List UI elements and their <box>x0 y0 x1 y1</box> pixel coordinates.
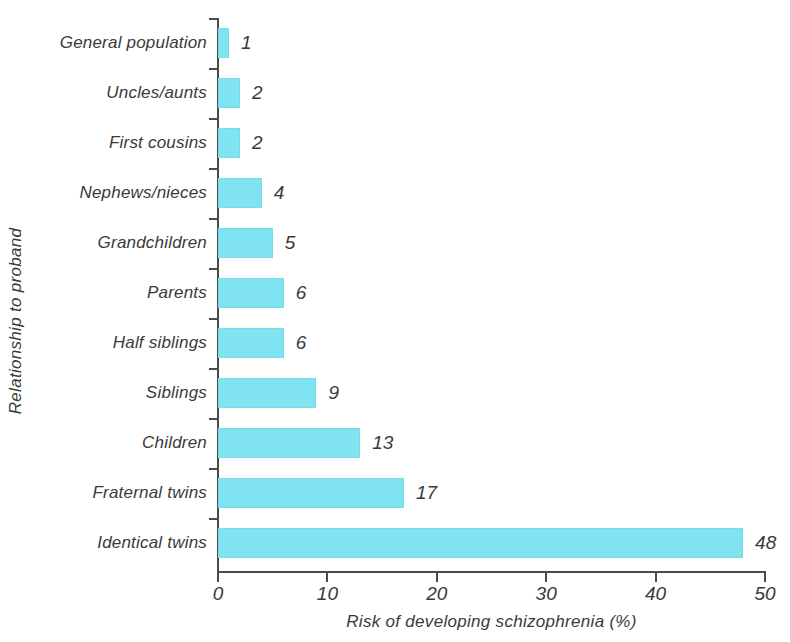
bar-value-label: 6 <box>284 328 307 358</box>
x-axis-tick <box>655 573 657 582</box>
bar <box>218 378 316 408</box>
bar-row: Parents6 <box>218 268 765 318</box>
bar-row: Fraternal twins17 <box>218 468 765 518</box>
bar-value-label: 48 <box>743 528 776 558</box>
bar-row: Uncles/aunts2 <box>218 68 765 118</box>
x-axis-line <box>217 571 766 573</box>
category-label: Half siblings <box>113 328 207 358</box>
bar-chart: Relationship to proband General populati… <box>0 0 790 642</box>
x-axis-tick <box>764 573 766 582</box>
x-axis-tick <box>545 573 547 582</box>
bar-row: Grandchildren5 <box>218 218 765 268</box>
bar-row: Identical twins48 <box>218 518 765 568</box>
y-axis-tick <box>209 318 218 320</box>
bar-value-label: 9 <box>316 378 339 408</box>
bar <box>218 428 360 458</box>
y-axis-tick <box>209 468 218 470</box>
y-axis-tick <box>209 118 218 120</box>
bar-row: Nephews/nieces4 <box>218 168 765 218</box>
x-axis-tick-label: 20 <box>426 583 447 605</box>
bar-value-label: 4 <box>262 178 285 208</box>
category-label: Siblings <box>146 378 207 408</box>
bar <box>218 328 284 358</box>
bar <box>218 78 240 108</box>
category-label: Parents <box>147 278 207 308</box>
bar-value-label: 6 <box>284 278 307 308</box>
bar-value-label: 13 <box>360 428 393 458</box>
y-axis-tick <box>209 68 218 70</box>
x-axis-tick-label: 40 <box>645 583 666 605</box>
bar-row: Children13 <box>218 418 765 468</box>
category-label: Identical twins <box>97 528 207 558</box>
bar <box>218 28 229 58</box>
plot-area: General population1Uncles/aunts2First co… <box>218 18 765 570</box>
bar <box>218 528 743 558</box>
y-axis-tick <box>209 18 218 20</box>
x-axis-tick-label: 0 <box>213 583 224 605</box>
bar-value-label: 1 <box>229 28 252 58</box>
category-label: Fraternal twins <box>93 478 207 508</box>
bar-value-label: 5 <box>273 228 296 258</box>
x-axis-tick <box>436 573 438 582</box>
bar-row: Half siblings6 <box>218 318 765 368</box>
bar <box>218 278 284 308</box>
category-label: Children <box>142 428 207 458</box>
category-label: General population <box>60 28 207 58</box>
category-label: Grandchildren <box>98 228 207 258</box>
category-label: Uncles/aunts <box>106 78 207 108</box>
y-axis-tick <box>209 368 218 370</box>
x-axis-tick <box>217 573 219 582</box>
bar-row: First cousins2 <box>218 118 765 168</box>
y-axis-tick <box>209 268 218 270</box>
bar <box>218 178 262 208</box>
x-axis-tick-label: 30 <box>536 583 557 605</box>
bar-value-label: 2 <box>240 128 263 158</box>
x-axis-title: Risk of developing schizophrenia (%) <box>218 612 765 632</box>
bar-value-label: 2 <box>240 78 263 108</box>
bar <box>218 228 273 258</box>
bar-value-label: 17 <box>404 478 437 508</box>
bar <box>218 478 404 508</box>
y-axis-tick <box>209 418 218 420</box>
y-axis-tick <box>209 218 218 220</box>
bar-row: General population1 <box>218 18 765 68</box>
y-axis-tick <box>209 168 218 170</box>
x-axis-tick-label: 50 <box>754 583 775 605</box>
y-axis-title: Relationship to proband <box>0 0 32 642</box>
bar <box>218 128 240 158</box>
category-label: Nephews/nieces <box>79 178 207 208</box>
category-label: First cousins <box>109 128 207 158</box>
bar-row: Siblings9 <box>218 368 765 418</box>
x-axis-tick-label: 10 <box>317 583 338 605</box>
x-axis-tick <box>326 573 328 582</box>
y-axis-tick <box>209 518 218 520</box>
